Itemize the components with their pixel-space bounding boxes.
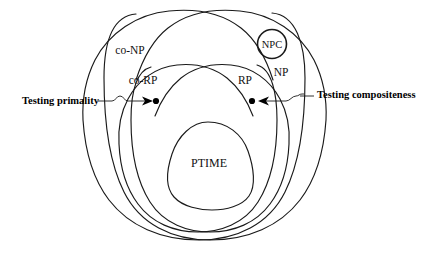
complexity-venn-diagram: co-NP NP co-RP RP NPC PTIME Testing prim…: [0, 0, 430, 254]
co-rp-region-outline: [131, 65, 289, 232]
primality-point-marker: [153, 98, 159, 104]
callout-label-testing-compositeness: Testing compositeness: [317, 89, 416, 100]
rp-region-outline: [119, 65, 277, 232]
compositeness-point-marker: [249, 98, 255, 104]
primality-squiggle: [112, 96, 140, 101]
region-label-co-rp: co-RP: [129, 74, 158, 86]
region-label-np: NP: [274, 66, 289, 78]
figure-canvas: co-NP NP co-RP RP NPC PTIME Testing prim…: [0, 0, 430, 254]
compositeness-squiggle: [286, 94, 304, 101]
region-label-npc: NPC: [262, 39, 282, 50]
callout-label-testing-primality: Testing primality: [22, 95, 100, 106]
region-label-rp: RP: [238, 74, 252, 86]
region-label-ptime: PTIME: [191, 156, 227, 170]
region-label-co-np: co-NP: [115, 44, 144, 56]
